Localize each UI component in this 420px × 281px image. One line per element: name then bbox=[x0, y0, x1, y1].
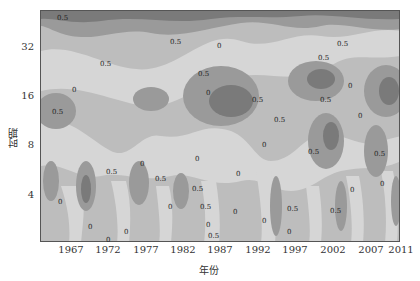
x-tick-label: 1987 bbox=[207, 244, 232, 255]
contour-label: 0.5 bbox=[337, 40, 348, 48]
contour-label: 0 bbox=[168, 203, 172, 211]
contour-label: 0.5 bbox=[374, 150, 385, 158]
contour-label: 0.5 bbox=[287, 205, 298, 213]
contour-label: 0.5 bbox=[155, 175, 166, 183]
contour-label: 0.5 bbox=[52, 108, 63, 116]
contour-label: 0.5 bbox=[200, 203, 211, 211]
x-tick-label: 1992 bbox=[245, 244, 270, 255]
contour-label: 0.5 bbox=[274, 116, 285, 124]
contour-label: 0 bbox=[348, 82, 352, 90]
contour-label: 0.5 bbox=[208, 232, 219, 240]
x-tick-label: 1997 bbox=[282, 244, 307, 255]
x-tick-label: 2007 bbox=[358, 244, 383, 255]
contour-label: 0 bbox=[287, 228, 291, 236]
y-axis-label: 时期 bbox=[6, 128, 21, 148]
contour-label: 0 bbox=[262, 217, 266, 225]
x-tick-label: 1967 bbox=[58, 244, 83, 255]
contour-label: 0 bbox=[236, 170, 240, 178]
y-tick-label: 4 bbox=[28, 189, 34, 200]
y-tick-label: 8 bbox=[28, 139, 34, 150]
contour-label: 0.5 bbox=[170, 38, 181, 46]
contour-label: 0.5 bbox=[57, 14, 68, 22]
contour-label: 0.5 bbox=[106, 168, 117, 176]
contour-label: 0 bbox=[262, 141, 266, 149]
contour-label: 0.5 bbox=[192, 185, 203, 193]
contour-label: 0 bbox=[140, 160, 144, 168]
x-tick-label: 2002 bbox=[320, 244, 345, 255]
contour-label: 0 bbox=[195, 155, 199, 163]
y-tick-label: 16 bbox=[21, 90, 34, 101]
contour-label: 0 bbox=[106, 236, 110, 244]
contour-label: 0 bbox=[58, 198, 62, 206]
contour-label: 0.5 bbox=[320, 96, 331, 104]
contour-label: 0 bbox=[233, 208, 237, 216]
contour-label: 0 bbox=[358, 112, 362, 120]
contour-label: 0 bbox=[88, 223, 92, 231]
contour-label: 0 bbox=[380, 180, 384, 188]
x-tick-label: 1972 bbox=[95, 244, 120, 255]
contour-label: 0 bbox=[206, 221, 210, 229]
x-axis-label: 年份 bbox=[199, 262, 219, 277]
contour-label: 0 bbox=[217, 42, 221, 50]
x-tick-label: 1977 bbox=[133, 244, 158, 255]
x-tick-label: 1982 bbox=[170, 244, 195, 255]
contour-label: 0.5 bbox=[198, 70, 209, 78]
contour-label: 0.5 bbox=[252, 96, 263, 104]
x-tick-label: 2011 bbox=[388, 244, 413, 255]
contour-label: 0 bbox=[206, 89, 210, 97]
contour-label: 0.5 bbox=[330, 207, 341, 215]
contour-label: 0.5 bbox=[308, 148, 319, 156]
contour-label: 0.5 bbox=[100, 60, 111, 68]
contour-label: 0 bbox=[350, 186, 354, 194]
contour-label: 0 bbox=[124, 228, 128, 236]
contour-label: 0.5 bbox=[318, 54, 329, 62]
contour-label: 0 bbox=[72, 86, 76, 94]
y-tick-label: 32 bbox=[21, 41, 34, 52]
